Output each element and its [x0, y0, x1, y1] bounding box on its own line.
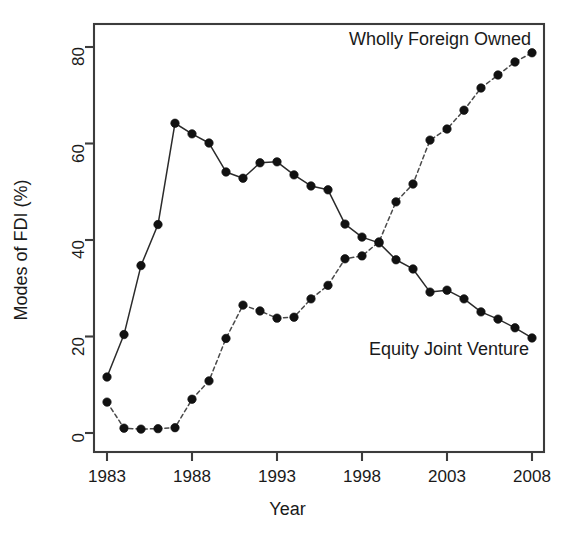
data-point	[443, 286, 451, 294]
data-point	[477, 84, 485, 92]
y-tick-label: 60	[70, 144, 87, 163]
data-point	[426, 288, 434, 296]
data-point	[171, 119, 179, 127]
data-point	[137, 425, 145, 433]
data-point	[392, 256, 400, 264]
data-point	[358, 252, 366, 260]
data-point	[494, 315, 502, 323]
x-axis-title: Year	[0, 500, 575, 518]
data-point	[290, 313, 298, 321]
series-annotation-equity-joint-venture: Equity Joint Venture	[369, 340, 529, 358]
data-point	[222, 168, 230, 176]
data-point	[290, 171, 298, 179]
chart-canvas	[0, 0, 575, 533]
data-point	[154, 424, 162, 432]
x-tick-label: 1998	[343, 468, 381, 485]
data-point	[120, 330, 128, 338]
series-annotation-wholly-foreign-owned: Wholly Foreign Owned	[349, 30, 531, 48]
data-point	[256, 159, 264, 167]
data-point	[477, 308, 485, 316]
y-tick-label: 0	[70, 433, 87, 442]
data-point	[171, 423, 179, 431]
x-tick-label: 2003	[428, 468, 466, 485]
data-point	[375, 238, 383, 246]
figure-container: 020406080 198319881993199820032008 Modes…	[0, 0, 575, 533]
data-point	[358, 233, 366, 241]
data-point	[324, 281, 332, 289]
data-point	[222, 334, 230, 342]
x-tick-label: 2008	[513, 468, 551, 485]
data-point	[460, 106, 468, 114]
y-tick-label: 80	[70, 47, 87, 66]
data-point	[273, 158, 281, 166]
y-axis-title: Modes of FDI (%)	[12, 179, 30, 320]
data-point	[120, 424, 128, 432]
data-point	[137, 261, 145, 269]
data-point	[392, 198, 400, 206]
data-point	[494, 71, 502, 79]
series-markers-wholly-foreign-owned	[103, 49, 536, 434]
data-point	[205, 377, 213, 385]
data-point	[205, 139, 213, 147]
data-point	[511, 324, 519, 332]
y-tick-label: 20	[70, 337, 87, 356]
data-point	[188, 130, 196, 138]
x-tick-label: 1993	[258, 468, 296, 485]
data-point	[239, 174, 247, 182]
data-point	[341, 255, 349, 263]
data-point	[511, 58, 519, 66]
data-point	[307, 182, 315, 190]
x-tick-label: 1988	[173, 468, 211, 485]
data-point	[528, 49, 536, 57]
x-axis-ticks	[107, 452, 532, 461]
data-point	[409, 265, 417, 273]
data-point	[103, 373, 111, 381]
y-tick-label: 40	[70, 240, 87, 259]
data-point	[460, 295, 468, 303]
data-point	[341, 220, 349, 228]
data-point	[409, 180, 417, 188]
data-point	[443, 125, 451, 133]
data-point	[273, 314, 281, 322]
y-axis-title-wrap: Modes of FDI (%)	[6, 0, 36, 533]
data-point	[103, 398, 111, 406]
x-tick-label: 1983	[88, 468, 126, 485]
data-point	[154, 220, 162, 228]
data-point	[426, 136, 434, 144]
data-point	[256, 307, 264, 315]
data-point	[239, 301, 247, 309]
data-point	[324, 186, 332, 194]
data-point	[188, 395, 196, 403]
data-point	[307, 295, 315, 303]
